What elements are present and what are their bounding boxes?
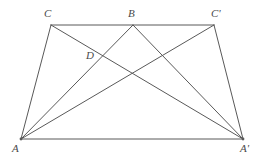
geometry-canvas — [0, 0, 264, 163]
vertex-dot-Aprime — [242, 138, 245, 141]
segments-group — [21, 25, 243, 139]
vertex-label-B: B — [128, 8, 135, 19]
vertex-label-D: D — [86, 50, 94, 61]
diagonal-A-Cprime — [21, 25, 214, 139]
vertex-dot-A — [20, 138, 23, 141]
side-Cprime-Aprime — [214, 25, 243, 139]
vertex-label-A: A — [12, 143, 19, 154]
diagonal-Aprime-C — [51, 25, 243, 139]
geometry-figure: AA'CBC'D — [0, 0, 264, 163]
diagonal-A-B — [21, 25, 133, 139]
vertex-label-Aprime: A' — [240, 143, 249, 154]
vertex-label-Cprime: C' — [211, 8, 221, 19]
vertex-label-C: C — [44, 8, 51, 19]
diagonal-Aprime-B — [133, 25, 243, 139]
side-A-C — [21, 25, 51, 139]
